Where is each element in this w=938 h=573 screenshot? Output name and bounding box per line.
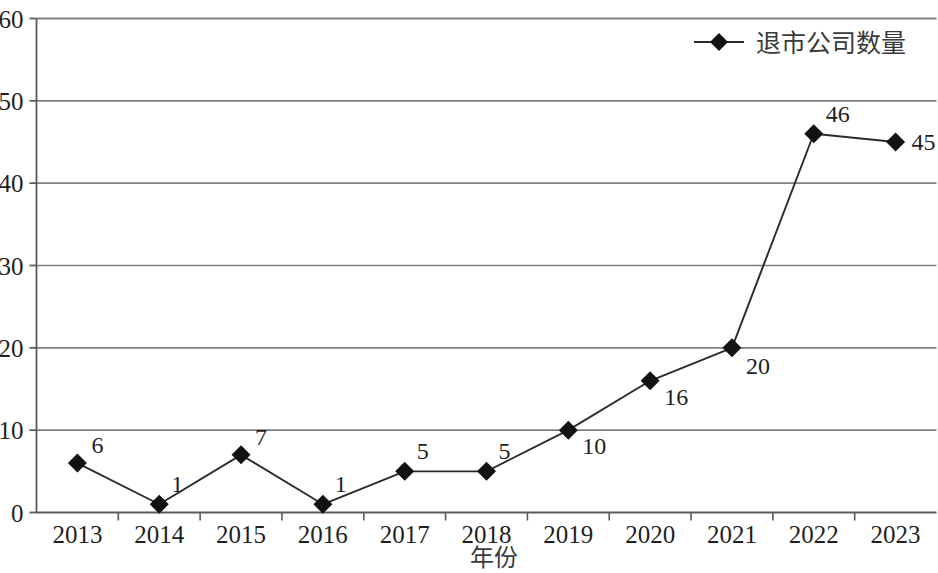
- x-tick-label: 2022: [789, 521, 839, 548]
- x-tick-label: 2016: [298, 521, 348, 548]
- data-point-marker: [313, 495, 332, 514]
- data-point-label: 45: [912, 129, 936, 155]
- legend-label: 退市公司数量: [756, 29, 906, 57]
- data-point-marker: [641, 371, 660, 390]
- chart-canvas: 0102030405060 20132014201520162017201820…: [0, 0, 938, 573]
- x-tick-label: 2015: [216, 521, 266, 548]
- data-point-marker: [68, 454, 87, 473]
- series-line-group: [77, 134, 895, 505]
- data-point-label: 46: [826, 101, 850, 127]
- data-point-marker: [395, 462, 414, 481]
- data-point-marker: [150, 495, 169, 514]
- series-line: [77, 134, 895, 505]
- x-tick-label: 2019: [543, 521, 593, 548]
- x-axis-group: [37, 513, 937, 521]
- y-tick-label: 0: [11, 500, 24, 527]
- data-point-label: 7: [255, 424, 267, 450]
- gridline-group: [37, 101, 937, 430]
- data-point-label: 20: [746, 353, 770, 379]
- data-point-label: 16: [664, 384, 688, 410]
- y-tick-label: 30: [0, 253, 24, 280]
- data-point-marker: [886, 133, 905, 152]
- y-tick-label: 20: [0, 335, 24, 362]
- x-tick-label: 2017: [380, 521, 430, 548]
- x-tick-label: 2023: [871, 521, 921, 548]
- data-point-label: 1: [335, 471, 347, 497]
- data-point-marker: [804, 124, 823, 143]
- data-point-label: 10: [582, 433, 606, 459]
- legend-diamond-marker: [710, 33, 728, 51]
- x-tick-label: 2014: [134, 521, 185, 548]
- line-chart-figure: 0102030405060 20132014201520162017201820…: [0, 0, 938, 573]
- data-point-label: 1: [171, 471, 183, 497]
- data-point-marker: [722, 338, 741, 357]
- legend: 退市公司数量: [694, 29, 906, 57]
- y-tick-label: 50: [0, 88, 24, 115]
- y-tick-label: 60: [0, 6, 24, 33]
- x-tick-label: 2013: [52, 521, 102, 548]
- x-tick-label: 2020: [625, 521, 675, 548]
- y-tick-label-group: 0102030405060: [0, 6, 24, 527]
- data-point-marker: [232, 445, 251, 464]
- y-axis-group: [30, 19, 37, 513]
- data-label-group: 6171551016204645: [91, 101, 935, 498]
- y-tick-label: 10: [0, 417, 24, 444]
- x-tick-label: 2021: [707, 521, 757, 548]
- data-point-label: 5: [417, 438, 429, 464]
- data-point-marker: [559, 421, 578, 440]
- x-axis-title: 年份: [470, 544, 518, 571]
- data-point-marker: [477, 462, 496, 481]
- y-tick-label: 40: [0, 170, 24, 197]
- data-point-label: 6: [91, 432, 103, 458]
- data-point-label: 5: [499, 438, 511, 464]
